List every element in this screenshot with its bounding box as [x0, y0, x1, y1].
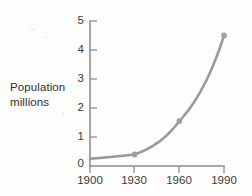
scan-speck — [150, 46, 154, 49]
y-tick-label-1: 1 — [78, 130, 84, 142]
x-tick-label-1960: 1960 — [166, 174, 192, 186]
y-tick-label-3: 3 — [78, 72, 84, 84]
y-axis-title: Population millions — [10, 80, 78, 109]
y-tick-label-0: 0 — [78, 157, 84, 169]
y-tick-label-2: 2 — [78, 101, 84, 113]
scan-speck — [62, 112, 65, 116]
data-point-markers — [132, 33, 227, 158]
scan-speck — [30, 28, 35, 31]
x-tick-label-1990: 1990 — [211, 174, 237, 186]
y-axis-title-line2: millions — [10, 95, 78, 110]
y-tick-label-4: 4 — [78, 43, 85, 55]
population-curve — [90, 36, 224, 159]
x-tick-label-1930: 1930 — [121, 174, 147, 186]
population-growth-chart: Population millions 5 4 3 2 1 0 1900 193… — [0, 0, 252, 196]
y-axis-title-line1: Population — [10, 80, 78, 95]
data-point-1960 — [176, 118, 182, 124]
data-point-1990 — [221, 33, 227, 39]
y-tick-label-5: 5 — [78, 14, 84, 26]
x-tick-label-1900: 1900 — [77, 174, 103, 186]
scan-speck — [44, 36, 47, 39]
data-point-1930 — [132, 152, 138, 158]
